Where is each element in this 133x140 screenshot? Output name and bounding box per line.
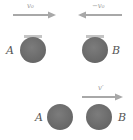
ball-b-label-before: B [111, 44, 120, 57]
ball-a-label-after: A [34, 111, 43, 124]
ball-b-after [86, 104, 112, 130]
velocity-arrow-b-before [78, 12, 122, 19]
ball-a-label-before: A [5, 44, 14, 57]
velocity-label-b-after: v′ [98, 84, 104, 92]
ball-a-before [20, 35, 46, 63]
ball-b-label-after: B [117, 111, 126, 124]
collision-diagram: v₀ −v₀ A B v′ A B [0, 0, 133, 140]
velocity-label-a-before: v₀ [27, 2, 34, 10]
velocity-arrow-b-after [82, 94, 123, 101]
velocity-label-b-before: −v₀ [92, 2, 105, 10]
velocity-arrow-a-before [13, 12, 56, 19]
ball-b-before [82, 35, 108, 63]
ball-a-after [47, 104, 73, 130]
